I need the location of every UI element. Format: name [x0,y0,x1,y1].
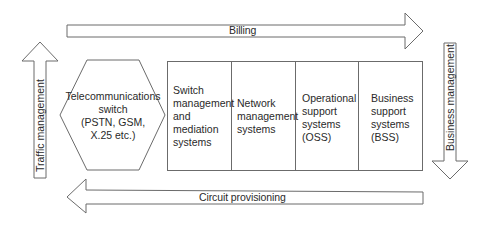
box-4-line-3: systems [371,118,414,131]
box-4-line-2: support [371,105,414,118]
box-2-line-2: management [237,110,298,123]
switch-management-mediation-systems: Switch management and mediation systems [173,84,234,149]
switch-label-line-4: X.25 etc.) [63,129,163,142]
switch-label-line-1: Telecommunications [63,90,163,103]
box-3-line-1: Operational [302,92,356,105]
switch-label-line-3: (PSTN, GSM, [63,116,163,129]
box-4-line-1: Business [371,92,414,105]
business-support-systems: Business support systems (BSS) [371,92,414,144]
traffic-management-label: Traffic management [34,79,46,172]
box-1-line-2: management [173,97,234,110]
box-1-line-3: and [173,110,234,123]
box-3-line-3: systems [302,118,356,131]
box-1-line-5: systems [173,136,234,149]
box-3-line-2: support [302,105,356,118]
circuit-provisioning-label: Circuit provisioning [199,191,286,204]
business-management-label: Business management [444,44,456,151]
switch-label: Telecommunications switch (PSTN, GSM, X.… [63,90,163,142]
box-2-line-3: systems [237,123,298,136]
switch-label-line-2: switch [63,103,163,116]
box-1-line-1: Switch [173,84,234,97]
box-2-line-1: Network [237,97,298,110]
box-4-line-4: (BSS) [371,131,414,144]
network-management-systems: Network management systems [237,97,298,136]
billing-label: Billing [229,24,256,37]
box-3-line-4: (OSS) [302,131,356,144]
operational-support-systems: Operational support systems (OSS) [302,92,356,144]
box-1-line-4: mediation [173,123,234,136]
